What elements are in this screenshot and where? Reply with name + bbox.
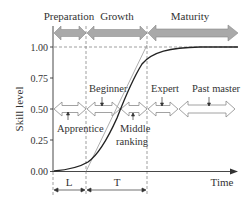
stage-arrow-beginner <box>87 102 120 116</box>
interval-arrows <box>54 188 146 192</box>
tick-label-050: 0.50 <box>31 104 49 115</box>
tick-label-100: 1.00 <box>31 42 49 53</box>
x-axis-label: Time <box>211 176 234 188</box>
stage-labels: Apprentice Beginner Middle ranking Exper… <box>57 83 241 147</box>
x-axis-arrowhead-icon <box>230 169 238 175</box>
phase-label-maturity: Maturity <box>171 10 210 22</box>
stage-arrow-middle-ranking <box>121 102 147 116</box>
axes <box>50 26 232 172</box>
stage-label-middle-line1: Middle <box>120 123 151 134</box>
stage-label-middle-line2: ranking <box>116 136 149 147</box>
phase-label-preparation: Preparation <box>44 10 95 22</box>
phase-label-growth: Growth <box>100 10 134 22</box>
interval-label-T: T <box>114 176 121 188</box>
phase-arrow-preparation <box>54 26 86 40</box>
stage-label-past-master: Past master <box>192 83 241 94</box>
stage-arrow-apprentice <box>54 102 86 116</box>
skill-level-diagram: Preparation Growth Maturity 1.00 0.75 0.… <box>0 0 252 201</box>
y-tick-labels: 1.00 0.75 0.50 0.25 0.00 <box>31 42 49 177</box>
phase-arrow-growth <box>87 26 147 40</box>
stage-label-beginner: Beginner <box>89 83 128 94</box>
stage-label-apprentice: Apprentice <box>57 123 104 134</box>
stage-arrow-past-master <box>179 101 235 117</box>
phase-arrow-maturity <box>148 25 238 41</box>
tick-label-025: 0.25 <box>31 135 49 146</box>
interval-label-L: L <box>66 176 73 188</box>
tick-label-075: 0.75 <box>31 73 49 84</box>
phase-arrows <box>54 25 238 41</box>
stage-label-expert: Expert <box>151 83 179 94</box>
tick-label-000: 0.00 <box>31 166 49 177</box>
y-axis-label: Skill level <box>13 87 25 132</box>
